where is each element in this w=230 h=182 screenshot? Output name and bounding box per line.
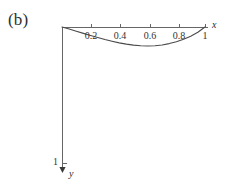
x-axis-name-label: x <box>212 19 216 30</box>
x-tick-label: 0.6 <box>144 30 157 41</box>
y-axis-name-label: y <box>69 168 73 179</box>
y-tick-label: 1 <box>53 156 58 167</box>
x-axis-group <box>62 24 208 28</box>
x-axis-ticks <box>92 24 206 28</box>
x-tick-label: 0.4 <box>114 30 127 41</box>
figure-panel: (b) 0.20.40.60.81 1 x y <box>0 0 230 182</box>
plot-canvas <box>0 0 230 182</box>
y-axis-group <box>59 27 66 173</box>
x-tick-label: 1 <box>203 30 208 41</box>
x-tick-label: 0.2 <box>85 30 98 41</box>
x-tick-label: 0.8 <box>173 30 186 41</box>
y-axis-arrowhead-icon <box>59 167 65 173</box>
